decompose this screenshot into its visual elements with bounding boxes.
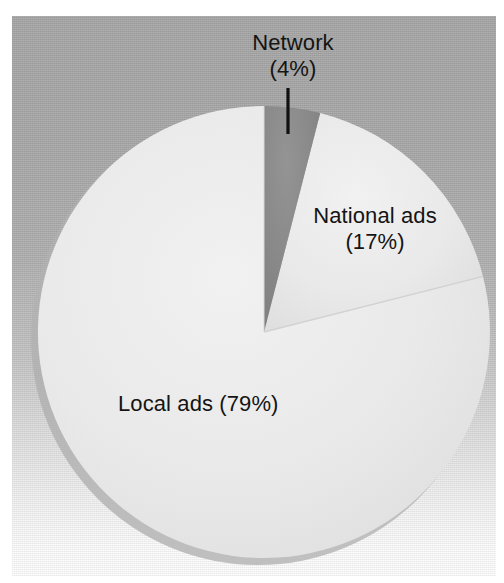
slice-label-national-ads: National ads (17%) [295, 203, 455, 255]
slice-label-network: Network (4%) [218, 30, 368, 82]
slice-label-network-name: Network [252, 30, 333, 55]
slice-label-national-ads-percent: (17%) [295, 229, 455, 255]
slice-label-network-percent: (4%) [218, 56, 368, 82]
slice-label-local-ads-name: Local ads (79%) [118, 391, 278, 416]
pie-chart-figure: Network (4%) National ads (17%) Local ad… [0, 0, 504, 583]
pie-chart-svg [0, 0, 504, 583]
slice-label-national-ads-name: National ads [313, 203, 437, 228]
slice-label-local-ads: Local ads (79%) [118, 391, 338, 417]
